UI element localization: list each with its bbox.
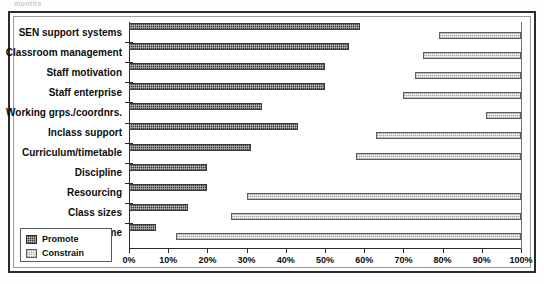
bar-promote [129, 83, 325, 90]
x-tick [286, 249, 287, 253]
bar-row [129, 22, 521, 42]
x-tick-label: 100% [509, 255, 532, 265]
x-tick [207, 249, 208, 253]
bar-promote [129, 43, 349, 50]
category-label: SEN support systems [0, 22, 127, 42]
bar-promote [129, 164, 207, 171]
x-tick [129, 249, 130, 253]
bar-promote [129, 204, 188, 211]
bar-rows [129, 22, 521, 246]
category-label: Inclass support [0, 122, 127, 142]
x-tick-label: 90% [473, 255, 491, 265]
bar-row [129, 183, 521, 203]
cropped-text-fragment: months [14, 0, 42, 8]
bar-constrain [439, 32, 521, 39]
bar-constrain [231, 213, 521, 220]
x-tick-label: 80% [434, 255, 452, 265]
bar-row [129, 122, 521, 142]
x-tick [443, 249, 444, 253]
bar-promote [129, 144, 251, 151]
bar-constrain [376, 132, 521, 139]
bar-constrain [176, 233, 521, 240]
x-tick-label: 60% [355, 255, 373, 265]
x-tick [364, 249, 365, 253]
bar-promote [129, 103, 262, 110]
bar-row [129, 82, 521, 102]
x-tick-label: 30% [238, 255, 256, 265]
bar-constrain [356, 153, 521, 160]
x-tick [482, 249, 483, 253]
legend-label-promote: Promote [42, 234, 79, 244]
x-tick [168, 249, 169, 253]
legend-item-constrain: Constrain [26, 247, 106, 259]
plot-area [129, 22, 521, 246]
x-tick-label: 0% [122, 255, 135, 265]
bar-row [129, 163, 521, 183]
category-label: Resourcing [0, 183, 127, 203]
category-axis-labels: SEN support systemsClassroom managementS… [0, 22, 127, 246]
chart-legend: Promote Constrain [20, 228, 112, 262]
x-tick-label: 10% [159, 255, 177, 265]
bar-promote [129, 224, 156, 231]
bar-constrain [415, 72, 521, 79]
x-tick [521, 249, 522, 253]
legend-swatch-promote-icon [26, 235, 37, 244]
category-label: Classroom management [0, 42, 127, 62]
x-tick [325, 249, 326, 253]
bar-row [129, 42, 521, 62]
bar-constrain [423, 52, 521, 59]
bar-promote [129, 123, 298, 130]
bar-row [129, 223, 521, 243]
bar-row [129, 62, 521, 82]
x-tick-label: 40% [277, 255, 295, 265]
plot-right-edge [521, 22, 522, 249]
category-label: Curriculum/timetable [0, 143, 127, 163]
bar-promote [129, 23, 360, 30]
bar-constrain [486, 112, 521, 119]
bar-constrain [247, 193, 521, 200]
x-tick-label: 50% [316, 255, 334, 265]
bar-promote [129, 63, 325, 70]
category-label: Working grps./coordnrs. [0, 102, 127, 122]
x-tick-label: 20% [198, 255, 216, 265]
category-label: Discipline [0, 163, 127, 183]
legend-item-promote: Promote [26, 233, 106, 245]
legend-swatch-constrain-icon [26, 249, 37, 258]
category-label: Staff motivation [0, 62, 127, 82]
bar-constrain [403, 92, 521, 99]
bar-promote [129, 184, 207, 191]
legend-label-constrain: Constrain [42, 248, 84, 258]
bar-row [129, 203, 521, 223]
x-tick-label: 70% [394, 255, 412, 265]
x-tick [247, 249, 248, 253]
bar-row [129, 143, 521, 163]
x-tick [403, 249, 404, 253]
bar-row [129, 102, 521, 122]
category-label: Class sizes [0, 203, 127, 223]
chart-figure: months SEN support systemsClassroom mana… [0, 0, 544, 284]
category-label: Staff enterprise [0, 82, 127, 102]
